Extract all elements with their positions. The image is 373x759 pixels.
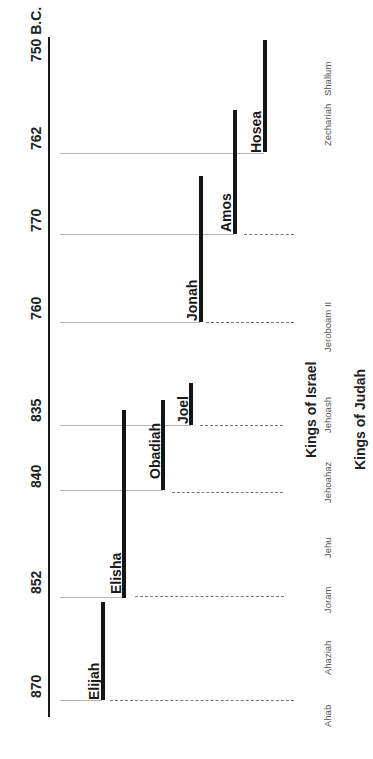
prophet-label-hosea: Hosea	[248, 111, 264, 153]
heading-kings-of-israel: Kings of Israel	[303, 362, 319, 458]
king-label-jehu: Jehu	[322, 537, 333, 558]
king-label-jeroboam-ii: Jeroboam II	[322, 302, 333, 352]
king-label-zechariah: Zechariah	[322, 104, 333, 146]
king-label-jehoahaz: Jehoahaz	[322, 462, 333, 503]
dashed-line-840	[172, 492, 283, 493]
prophet-label-obadiah: Obadiah	[147, 423, 163, 479]
year-label-835: 835	[28, 399, 44, 422]
year-label-760: 760	[28, 297, 44, 320]
prophet-label-joel: Joel	[175, 396, 191, 424]
king-label-ahab: Ahab	[322, 705, 333, 727]
king-label-ahaziah: Ahaziah	[322, 641, 333, 675]
gridline-870	[60, 700, 102, 701]
gridline-852	[60, 597, 124, 598]
year-label-852: 852	[28, 571, 44, 594]
dashed-line-770	[244, 234, 294, 235]
heading-kings-of-judah: Kings of Judah	[352, 369, 368, 470]
year-label-762: 762	[28, 127, 44, 150]
year-label-750: 750 B.C.	[28, 7, 44, 62]
year-label-770: 770	[28, 209, 44, 232]
gridline-840	[60, 490, 163, 491]
prophet-label-elisha: Elisha	[108, 553, 124, 594]
king-label-shallum: Shallum	[322, 62, 333, 96]
prophet-label-elijah: Elijah	[86, 663, 102, 700]
king-label-joram: Joram	[322, 587, 333, 613]
gridline-760	[60, 322, 200, 323]
year-label-840: 840	[28, 465, 44, 488]
dashed-line-835	[200, 425, 283, 426]
timeline-diagram: 750 B.C. 762 770 760 835 840 852 870 Hos…	[0, 0, 373, 759]
prophet-label-jonah: Jonah	[184, 280, 200, 321]
prophet-label-amos: Amos	[218, 193, 234, 232]
dashed-line-760	[206, 322, 294, 323]
year-label-870: 870	[28, 675, 44, 698]
timeline-axis	[48, 37, 50, 717]
dashed-line-870	[110, 700, 294, 701]
king-label-jehoash: Jehoash	[322, 397, 333, 433]
gridline-770	[60, 234, 234, 235]
dashed-line-852	[135, 596, 284, 597]
